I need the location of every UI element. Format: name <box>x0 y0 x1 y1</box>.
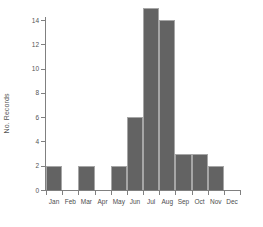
bar-may <box>111 166 127 190</box>
y-tick-label: 4 <box>35 138 39 145</box>
bar-jan <box>46 166 62 190</box>
x-tick-mark <box>175 191 176 195</box>
y-tick-mark <box>41 166 45 167</box>
y-tick-mark <box>41 141 45 142</box>
y-tick: 14 <box>0 20 45 21</box>
x-tick-label-aug: Aug <box>159 197 175 209</box>
y-tick-mark <box>41 44 45 45</box>
x-tick-label-mar: Mar <box>78 197 94 209</box>
x-tick-mark <box>127 191 128 195</box>
y-tick: 0 <box>0 190 45 191</box>
y-tick-label: 10 <box>32 65 39 72</box>
y-tick: 10 <box>0 69 45 70</box>
y-tick: 4 <box>0 141 45 142</box>
x-tick-mark <box>46 191 47 195</box>
y-tick-label: 8 <box>35 89 39 96</box>
y-tick-label: 6 <box>35 114 39 121</box>
bar-slot <box>95 8 111 190</box>
plot-area <box>46 8 240 190</box>
y-tick: 6 <box>0 117 45 118</box>
x-tick-mark <box>208 191 209 195</box>
x-axis-labels: JanFebMarAprMayJunJulAugSepOctNovDec <box>46 197 240 209</box>
x-axis-ticks <box>46 191 240 195</box>
bar-aug <box>159 20 175 190</box>
x-tick-label-feb: Feb <box>62 197 78 209</box>
x-tick-label-dec: Dec <box>224 197 240 209</box>
bar-slot <box>175 8 191 190</box>
y-tick-mark <box>41 69 45 70</box>
bar-series <box>46 8 240 190</box>
x-tick-label-apr: Apr <box>95 197 111 209</box>
x-tick-mark <box>62 191 63 195</box>
bar-oct <box>192 154 208 190</box>
bar-jun <box>127 117 143 190</box>
y-tick-mark <box>41 20 45 21</box>
x-tick-label-may: May <box>111 197 127 209</box>
y-tick: 2 <box>0 166 45 167</box>
x-tick-mark <box>111 191 112 195</box>
y-tick-mark <box>41 190 45 191</box>
bar-slot <box>127 8 143 190</box>
x-tick-mark <box>240 191 241 195</box>
y-axis-title: No. Records <box>0 0 14 227</box>
x-tick-mark <box>95 191 96 195</box>
y-tick: 8 <box>0 93 45 94</box>
bar-slot <box>62 8 78 190</box>
x-tick-label-sep: Sep <box>175 197 191 209</box>
bar-slot <box>78 8 94 190</box>
x-tick-label-jul: Jul <box>143 197 159 209</box>
x-tick-label-oct: Oct <box>192 197 208 209</box>
bar-slot <box>111 8 127 190</box>
x-tick-label-jun: Jun <box>127 197 143 209</box>
x-tick-mark <box>143 191 144 195</box>
bar-slot <box>192 8 208 190</box>
bar-slot <box>208 8 224 190</box>
y-tick-mark <box>41 117 45 118</box>
x-tick-mark <box>78 191 79 195</box>
bar-jul <box>143 8 159 190</box>
x-tick-mark <box>224 191 225 195</box>
bar-slot <box>143 8 159 190</box>
y-tick-label: 2 <box>35 162 39 169</box>
y-tick-label: 12 <box>32 41 39 48</box>
y-tick: 12 <box>0 44 45 45</box>
bar-chart: No. Records 02468101214 JanFebMarAprMayJ… <box>0 0 263 227</box>
bar-slot <box>224 8 240 190</box>
bar-slot <box>159 8 175 190</box>
x-tick-mark <box>192 191 193 195</box>
bar-mar <box>78 166 94 190</box>
bar-nov <box>208 166 224 190</box>
bar-slot <box>46 8 62 190</box>
y-tick-label: 14 <box>32 17 39 24</box>
x-tick-label-jan: Jan <box>46 197 62 209</box>
y-tick-label: 0 <box>35 187 39 194</box>
x-tick-label-nov: Nov <box>208 197 224 209</box>
x-tick-mark <box>159 191 160 195</box>
y-tick-mark <box>41 93 45 94</box>
bar-sep <box>175 154 191 190</box>
